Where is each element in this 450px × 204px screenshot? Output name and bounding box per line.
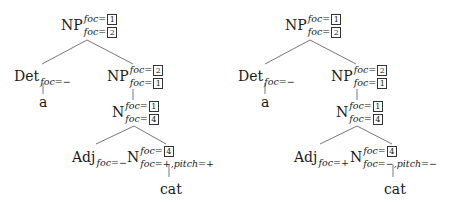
feature-text: foc= bbox=[125, 113, 148, 124]
word-cat: cat bbox=[384, 182, 406, 196]
tag-box: 2 bbox=[153, 65, 163, 76]
n-leaf-label: N bbox=[127, 149, 139, 165]
np-root-label: NP bbox=[285, 17, 307, 33]
edge-n-adj bbox=[320, 126, 357, 144]
tag-box: 4 bbox=[387, 146, 397, 157]
np-node: NP foc=2 foc=1 bbox=[107, 68, 129, 84]
n-leaf-sub: foc=+,pitch=+ bbox=[140, 159, 214, 169]
det-sub: foc=− bbox=[40, 76, 70, 87]
edge-root-np bbox=[310, 40, 356, 64]
n-leaf-label: N bbox=[350, 149, 362, 165]
edge-root-det bbox=[265, 40, 310, 64]
n-leaf-node: N foc=4 foc=+,pitch=+ bbox=[127, 149, 139, 165]
adj-node: Adjfoc=− bbox=[72, 149, 127, 165]
feature-text: foc= bbox=[84, 26, 107, 37]
n-node: N foc=1 foc=4 bbox=[112, 104, 124, 120]
adj-sub: foc=+ bbox=[318, 157, 348, 168]
adj-sub: foc=− bbox=[96, 157, 126, 168]
feature-text: foc= bbox=[354, 77, 377, 88]
n-label: N bbox=[112, 104, 124, 120]
np-label: NP bbox=[107, 68, 129, 84]
feature-text: foc= bbox=[308, 13, 331, 24]
feature-text: foc= bbox=[125, 100, 148, 111]
n-node: N foc=1 foc=4 bbox=[336, 104, 348, 120]
det-node: Detfoc=− bbox=[238, 68, 295, 84]
adj-label: Adj bbox=[294, 149, 317, 165]
feature-text: foc= bbox=[363, 145, 386, 156]
np-root-sup: foc=1 bbox=[84, 14, 118, 25]
edge-n-n bbox=[357, 126, 392, 144]
det-node: Detfoc=− bbox=[14, 68, 71, 84]
np-sup: foc=2 bbox=[130, 65, 164, 76]
np-sup: foc=2 bbox=[354, 65, 388, 76]
feature-text: foc= bbox=[84, 13, 107, 24]
n-leaf-sub: foc=−,pitch=− bbox=[363, 159, 437, 169]
adj-label: Adj bbox=[72, 149, 95, 165]
tag-box: 1 bbox=[331, 14, 341, 25]
np-root-sub: foc=2 bbox=[84, 27, 118, 38]
tag-box: 4 bbox=[149, 114, 159, 125]
n-leaf-node: N foc=4 foc=−,pitch=− bbox=[350, 149, 362, 165]
adj-node: Adjfoc=+ bbox=[294, 149, 349, 165]
tag-box: 1 bbox=[107, 14, 117, 25]
tag-box: 1 bbox=[153, 78, 163, 89]
feature-text: foc= bbox=[349, 100, 372, 111]
word-a: a bbox=[261, 95, 269, 109]
n-sub: foc=4 bbox=[125, 114, 159, 125]
feature-text: foc= bbox=[349, 113, 372, 124]
np-sub: foc=1 bbox=[354, 78, 388, 89]
feature-text: foc= bbox=[130, 64, 153, 75]
feature-text: foc= bbox=[140, 145, 163, 156]
edge-root-np bbox=[87, 40, 133, 64]
tag-box: 1 bbox=[373, 101, 383, 112]
np-root-node: NP foc=1 foc=2 bbox=[61, 17, 83, 33]
np-label: NP bbox=[331, 68, 353, 84]
tag-box: 2 bbox=[331, 27, 341, 38]
edge-root-det bbox=[42, 40, 87, 64]
feature-text: foc= bbox=[354, 64, 377, 75]
n-leaf-sup: foc=4 bbox=[363, 146, 397, 157]
np-node: NP foc=2 foc=1 bbox=[331, 68, 353, 84]
n-sup: foc=1 bbox=[125, 101, 159, 112]
np-root-node: NP foc=1 foc=2 bbox=[285, 17, 307, 33]
word-a: a bbox=[39, 95, 47, 109]
n-sub: foc=4 bbox=[349, 114, 383, 125]
tag-box: 2 bbox=[377, 65, 387, 76]
tag-box: 4 bbox=[373, 114, 383, 125]
np-root-label: NP bbox=[61, 17, 83, 33]
n-label: N bbox=[336, 104, 348, 120]
edge-n-adj bbox=[96, 126, 134, 144]
np-root-sub: foc=2 bbox=[308, 27, 342, 38]
word-cat: cat bbox=[160, 182, 182, 196]
tag-box: 2 bbox=[107, 27, 117, 38]
det-label: Det bbox=[238, 68, 263, 84]
feature-text: foc= bbox=[308, 26, 331, 37]
n-sup: foc=1 bbox=[349, 101, 383, 112]
np-root-sup: foc=1 bbox=[308, 14, 342, 25]
tag-box: 4 bbox=[164, 146, 174, 157]
det-sub: foc=− bbox=[264, 76, 294, 87]
np-sub: foc=1 bbox=[130, 78, 164, 89]
tag-box: 1 bbox=[377, 78, 387, 89]
tag-box: 1 bbox=[149, 101, 159, 112]
det-label: Det bbox=[14, 68, 39, 84]
edge-n-n bbox=[134, 126, 166, 144]
feature-text: foc= bbox=[130, 77, 153, 88]
n-leaf-sup: foc=4 bbox=[140, 146, 174, 157]
